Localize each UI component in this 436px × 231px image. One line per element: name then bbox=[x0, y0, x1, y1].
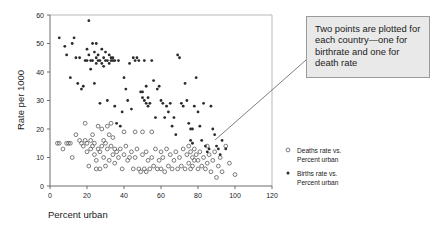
data-point-death bbox=[93, 141, 97, 145]
data-point-birth bbox=[112, 56, 115, 59]
legend-label-births-line2: Percent urban bbox=[297, 179, 339, 186]
data-point-death bbox=[163, 170, 167, 174]
data-point-death bbox=[135, 147, 139, 151]
data-point-birth bbox=[197, 111, 200, 114]
data-point-death bbox=[183, 167, 187, 171]
data-point-birth bbox=[143, 59, 146, 62]
data-point-death bbox=[115, 150, 119, 154]
data-point-birth bbox=[71, 42, 74, 45]
x-tick-label: 100 bbox=[229, 192, 241, 199]
data-point-death bbox=[185, 153, 189, 157]
data-point-death bbox=[94, 167, 98, 171]
data-point-birth bbox=[82, 85, 85, 88]
data-point-death bbox=[211, 158, 215, 162]
data-point-death bbox=[122, 153, 126, 157]
data-point-death bbox=[100, 144, 104, 148]
data-point-death bbox=[213, 150, 217, 154]
data-point-birth bbox=[186, 99, 189, 102]
data-point-death bbox=[194, 153, 198, 157]
data-point-birth bbox=[217, 148, 220, 151]
data-point-death bbox=[178, 156, 182, 160]
x-tick-label: 120 bbox=[266, 192, 278, 199]
data-point-birth bbox=[106, 99, 109, 102]
data-point-birth bbox=[189, 139, 192, 142]
data-point-birth bbox=[149, 102, 152, 105]
data-point-birth bbox=[97, 54, 100, 57]
data-point-birth bbox=[119, 125, 122, 128]
x-tick-label: 80 bbox=[194, 192, 202, 199]
data-point-death bbox=[165, 147, 169, 151]
x-tick-label: 0 bbox=[48, 192, 52, 199]
data-point-birth bbox=[123, 76, 126, 79]
data-point-birth bbox=[100, 48, 103, 51]
y-tick-label: 60 bbox=[36, 12, 44, 19]
data-point-death bbox=[91, 133, 95, 137]
data-point-death bbox=[107, 133, 111, 137]
data-point-death bbox=[202, 156, 206, 160]
data-point-birth bbox=[113, 59, 116, 62]
data-point-birth bbox=[147, 96, 150, 99]
data-point-death bbox=[176, 167, 180, 171]
y-tick-label: 30 bbox=[36, 97, 44, 104]
data-point-birth bbox=[180, 102, 183, 105]
data-point-death bbox=[196, 158, 200, 162]
data-point-birth bbox=[99, 59, 102, 62]
data-point-death bbox=[207, 153, 211, 157]
data-point-birth bbox=[65, 54, 68, 57]
data-point-death bbox=[159, 167, 163, 171]
data-point-birth bbox=[121, 111, 124, 114]
data-point-birth bbox=[80, 88, 83, 91]
data-point-birth bbox=[150, 59, 153, 62]
data-point-death bbox=[93, 153, 97, 157]
data-point-birth bbox=[208, 148, 211, 151]
data-point-birth bbox=[95, 62, 98, 65]
data-point-birth bbox=[69, 76, 72, 79]
data-point-birth bbox=[193, 105, 196, 108]
data-point-death bbox=[215, 176, 219, 180]
births-series-points bbox=[58, 19, 227, 156]
data-point-birth bbox=[132, 56, 135, 59]
data-point-death bbox=[124, 144, 128, 148]
y-axis-title: Rate per 1000 bbox=[15, 70, 26, 130]
data-point-birth bbox=[200, 139, 203, 142]
data-point-birth bbox=[213, 133, 216, 136]
data-point-death bbox=[150, 156, 154, 160]
data-point-death bbox=[150, 130, 154, 134]
data-point-death bbox=[204, 167, 208, 171]
data-point-death bbox=[167, 164, 171, 168]
data-point-birth bbox=[178, 56, 181, 59]
data-point-death bbox=[87, 164, 91, 168]
x-axis-title: Percent urban bbox=[48, 209, 108, 220]
data-point-death bbox=[104, 141, 108, 145]
data-point-death bbox=[94, 158, 98, 162]
data-point-death bbox=[122, 130, 126, 134]
data-point-birth bbox=[91, 42, 94, 45]
data-point-birth bbox=[102, 56, 105, 59]
data-point-death bbox=[157, 158, 161, 162]
data-point-birth bbox=[152, 79, 155, 82]
data-point-death bbox=[113, 161, 117, 165]
legend-marker-births bbox=[287, 172, 290, 175]
data-point-death bbox=[85, 141, 89, 145]
data-point-death bbox=[98, 167, 102, 171]
legend-label-births-line1: Births rate vs. bbox=[297, 170, 337, 177]
data-point-birth bbox=[93, 51, 96, 54]
data-point-death bbox=[192, 158, 196, 162]
data-point-death bbox=[131, 167, 135, 171]
data-point-death bbox=[109, 121, 113, 125]
data-point-birth bbox=[210, 105, 213, 108]
data-point-birth bbox=[174, 133, 177, 136]
data-point-death bbox=[191, 164, 195, 168]
legend-marker-deaths bbox=[286, 148, 290, 152]
data-point-death bbox=[141, 153, 145, 157]
data-point-birth bbox=[104, 51, 107, 54]
data-point-death bbox=[146, 158, 150, 162]
data-point-death bbox=[174, 150, 178, 154]
data-point-death bbox=[161, 156, 165, 160]
data-point-death bbox=[152, 164, 156, 168]
data-point-birth bbox=[117, 59, 120, 62]
data-point-birth bbox=[75, 56, 78, 59]
data-point-death bbox=[224, 144, 228, 148]
legend-label-deaths-line2: Percent urban bbox=[297, 156, 339, 163]
data-point-birth bbox=[211, 128, 214, 131]
